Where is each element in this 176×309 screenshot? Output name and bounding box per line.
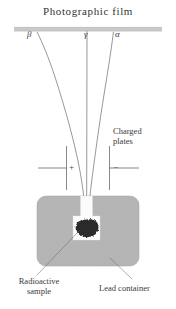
gamma-symbol-label: γ: [84, 29, 88, 40]
lead-container: [37, 196, 139, 266]
photographic-film-strip: [14, 27, 162, 31]
charged-plates: [38, 146, 139, 190]
diagram-canvas: [0, 0, 176, 309]
alpha-symbol-label: α: [115, 29, 120, 40]
beta-symbol-label: β: [27, 29, 31, 40]
positive-plate-sign: +: [69, 162, 74, 173]
charged-plates-label-line2: plates: [113, 136, 161, 146]
radioactivity-deflection-diagram: Photographic film β γ α Charged plates +…: [0, 0, 176, 309]
lead-container-label: Lead container: [99, 283, 150, 293]
radioactive-sample-label-line2: sample: [8, 286, 70, 296]
radioactive-sample-label: Radioactive sample: [8, 276, 70, 296]
charged-plates-label: Charged plates: [113, 126, 161, 146]
radioactive-sample-label-line1: Radioactive: [19, 276, 60, 286]
radioactive-sample-blob: [76, 219, 99, 237]
charged-plates-label-line1: Charged: [113, 126, 142, 136]
negative-plate-sign: −: [113, 162, 118, 173]
page-title: Photographic film: [0, 5, 176, 18]
